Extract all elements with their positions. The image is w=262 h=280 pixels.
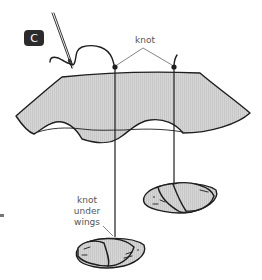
canopy-shape [16, 72, 250, 143]
moth-right-icon [144, 183, 217, 213]
diagram-canvas: C knot kn [0, 0, 262, 280]
moth-left-icon [76, 238, 144, 268]
knot-leader [117, 48, 172, 65]
knot-label: knot [135, 35, 155, 45]
thread-loop [50, 46, 115, 68]
step-badge: C [24, 30, 44, 46]
knot-under-wings-label-line2: under [74, 206, 101, 216]
knot-under-wings-label-line3: wings [74, 217, 100, 227]
knot-under-wings-label-line1: knot [77, 195, 97, 205]
edge-fragment [0, 214, 4, 217]
knot-under-wings-leader [103, 226, 113, 236]
step-badge-label: C [30, 32, 38, 45]
